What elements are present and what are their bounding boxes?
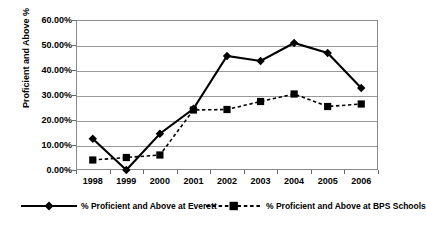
legend-key-diamond-icon — [20, 200, 78, 212]
legend-item-bps-schools[interactable]: % Proficient and Above at BPS Schools — [205, 198, 426, 214]
data-point-marker — [257, 98, 264, 105]
legend-label-bps-schools: % Proficient and Above at BPS Schools — [266, 201, 426, 211]
data-point-marker — [190, 106, 197, 113]
legend-label-everett: % Proficient and Above at Everett — [81, 201, 217, 211]
data-point-marker — [291, 90, 298, 97]
legend-key-square-icon — [205, 200, 263, 212]
data-point-marker — [89, 156, 96, 163]
data-point-marker — [324, 103, 331, 110]
data-point-marker — [290, 39, 298, 47]
data-point-marker — [358, 100, 365, 107]
data-point-marker — [156, 151, 163, 158]
data-point-marker — [123, 154, 130, 161]
data-point-marker — [223, 106, 230, 113]
data-point-marker — [256, 57, 264, 65]
series-line-2 — [93, 94, 361, 160]
chart-legend: % Proficient and Above at Everett % Prof… — [0, 198, 414, 220]
legend-item-everett[interactable]: % Proficient and Above at Everett — [20, 198, 217, 214]
